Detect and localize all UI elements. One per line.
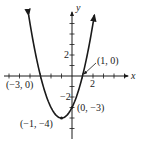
x-axis-label: x	[131, 71, 135, 81]
point-label-neg3-0: (−3, 0)	[6, 80, 33, 90]
y-axis-label: y	[76, 3, 80, 13]
point-label-0-neg3: (0, −3)	[77, 103, 104, 113]
x-tick-label-2: 2	[90, 79, 95, 89]
y-intercept-point	[71, 106, 73, 108]
cropped-caption	[22, 0, 62, 1]
y-tick-label-2: 2	[64, 50, 69, 60]
point-label-1-0: (1, 0)	[97, 56, 119, 66]
y-tick-label-neg2: −2	[60, 92, 71, 102]
vertex-point	[60, 117, 63, 120]
point-label-neg1-neg4: (−1, −4)	[20, 119, 53, 129]
